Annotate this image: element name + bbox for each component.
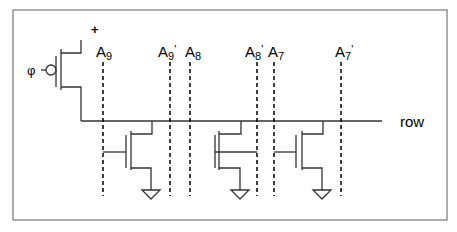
label-a8-bar: A8' [245, 43, 263, 62]
pulldown-nmos-a9 [103, 121, 160, 199]
pulldown-nmos-a8-bar [215, 121, 257, 199]
circuit-diagram: + φ row A9 A9' A8 A8' A7 A7' [0, 0, 457, 232]
ground-icon [231, 190, 249, 199]
label-a9: A9 [96, 43, 112, 62]
supply-label: + [91, 22, 99, 37]
ground-icon [313, 190, 331, 199]
precharge-pmos-transistor [41, 40, 81, 121]
address-lines [103, 62, 341, 196]
diagram-frame [13, 10, 447, 220]
label-a7: A7 [268, 43, 284, 62]
label-a7-bar: A7' [335, 43, 353, 62]
clock-phi-label: φ [27, 63, 35, 78]
ground-icon [142, 190, 160, 199]
row-label: row [400, 113, 424, 130]
inverter-bubble-icon [46, 65, 56, 75]
label-a9-bar: A9' [158, 43, 176, 62]
pulldown-nmos-a7 [274, 121, 331, 199]
label-a8: A8 [185, 43, 201, 62]
